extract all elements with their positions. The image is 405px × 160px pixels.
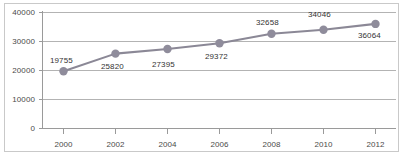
data-point-marker-2002 (111, 49, 119, 57)
x-tick-label-2000: 2000 (43, 140, 84, 149)
x-tick-label-2008: 2008 (251, 140, 292, 149)
gridlines (43, 13, 396, 129)
y-tick-label-40000: 40000 (4, 8, 35, 17)
data-point-marker-2008 (267, 30, 275, 38)
data-point-marker-2004 (163, 45, 171, 53)
point-label-2002: 25820 (101, 62, 124, 71)
point-label-2000: 19755 (50, 56, 73, 65)
data-point-marker-2000 (59, 67, 67, 75)
y-tick-label-0: 0 (4, 124, 35, 133)
y-tick-label-30000: 30000 (4, 37, 35, 46)
y-tick-label-10000: 10000 (4, 95, 35, 104)
line-chart-plot (0, 0, 405, 160)
point-label-2010: 34046 (308, 10, 331, 19)
data-point-marker-2010 (319, 26, 327, 34)
x-tick-label-2004: 2004 (147, 140, 188, 149)
x-tick-label-2012: 2012 (355, 140, 396, 149)
x-tick-label-2010: 2010 (303, 140, 344, 149)
point-label-2012: 36064 (358, 31, 381, 40)
x-axis-ticks (64, 129, 376, 134)
y-tick-label-20000: 20000 (4, 66, 35, 75)
x-tick-label-2002: 2002 (95, 140, 136, 149)
data-point-marker-2012 (371, 20, 379, 28)
point-label-2008: 32658 (256, 18, 279, 27)
point-label-2006: 29372 (205, 52, 228, 61)
chart-container: 40000 30000 20000 10000 0 2000 2002 2004… (0, 0, 405, 160)
y-axis-ticks (39, 13, 43, 129)
x-tick-label-2006: 2006 (199, 140, 240, 149)
data-point-marker-2006 (215, 39, 223, 47)
point-label-2004: 27395 (152, 60, 175, 69)
